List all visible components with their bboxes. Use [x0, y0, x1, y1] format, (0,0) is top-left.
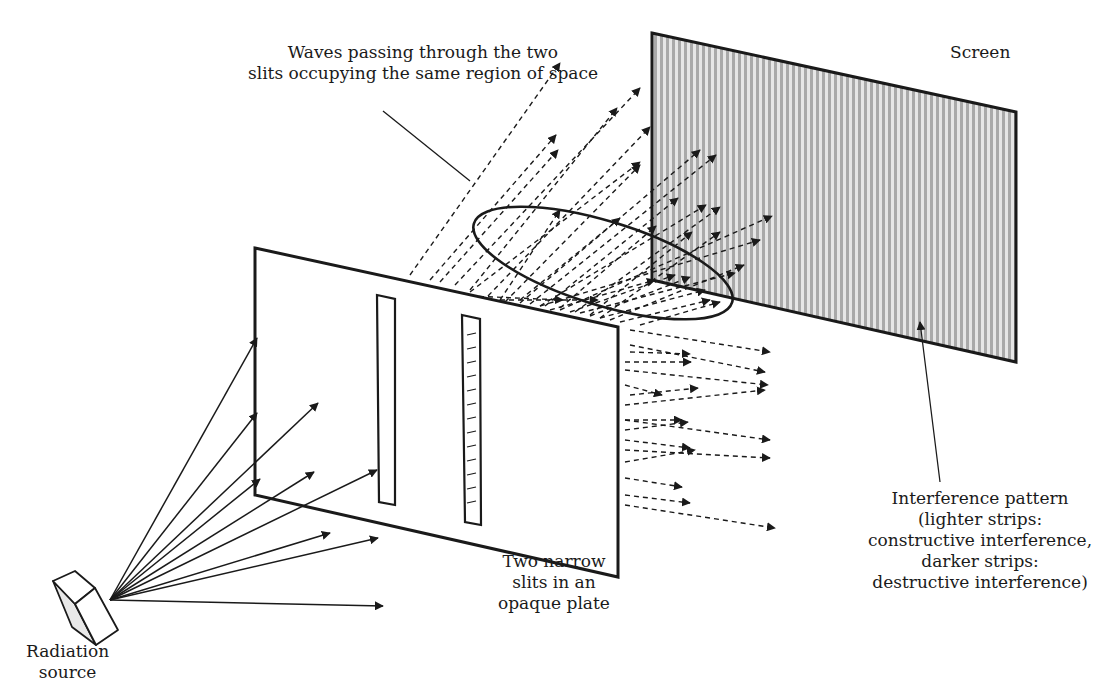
- incident-ray-arrow: [110, 472, 314, 600]
- diffracted-wave-arrow: [625, 450, 695, 462]
- incident-ray-arrow: [110, 600, 383, 606]
- diffracted-wave-arrow: [625, 450, 770, 458]
- label-waves: Waves passing through the two slits occu…: [248, 42, 598, 84]
- diffracted-wave-arrow: [630, 345, 765, 372]
- diffracted-wave-arrow: [625, 420, 770, 440]
- incident-ray-arrow: [110, 470, 377, 600]
- label-radiation-source: Radiation source: [26, 641, 109, 683]
- diffracted-wave-arrow: [625, 478, 682, 487]
- incident-ray-arrow: [110, 413, 257, 600]
- diffracted-wave-arrow: [625, 505, 775, 528]
- diffracted-wave-arrow: [455, 88, 640, 285]
- incident-ray-arrow: [110, 338, 257, 600]
- label-interference-pattern: Interference pattern (lighter strips: co…: [868, 488, 1092, 593]
- screen-surface: [652, 33, 1016, 362]
- diffracted-wave-arrow: [630, 352, 690, 354]
- opaque-plate: [255, 248, 618, 577]
- incident-ray-arrow: [110, 479, 260, 600]
- incident-ray-arrow: [110, 538, 378, 600]
- diffracted-wave-arrow: [625, 440, 690, 448]
- slit-right: [462, 315, 481, 525]
- label-screen: Screen: [950, 42, 1010, 63]
- incident-ray-arrow: [110, 533, 330, 600]
- radiation-source-icon: [53, 571, 118, 645]
- label-slits: Two narrow slits in an opaque plate: [498, 551, 610, 614]
- slit-left: [377, 295, 395, 505]
- diffracted-wave-arrow: [630, 388, 698, 395]
- diffracted-wave-arrow: [570, 275, 675, 312]
- diffracted-wave-arrow: [625, 390, 765, 405]
- screen: [652, 33, 1016, 362]
- diffracted-wave-arrow: [625, 370, 768, 385]
- plate-surface: [255, 248, 618, 577]
- diffracted-wave-arrow: [640, 302, 720, 325]
- diffracted-wave-arrow: [590, 277, 690, 316]
- diffracted-wave-arrow: [520, 218, 620, 300]
- waves-leader: [383, 111, 470, 181]
- pattern-leader: [920, 322, 940, 482]
- diffracted-wave-arrow: [625, 495, 690, 503]
- diffracted-wave-arrow: [625, 422, 688, 430]
- diffracted-wave-arrow: [410, 63, 560, 275]
